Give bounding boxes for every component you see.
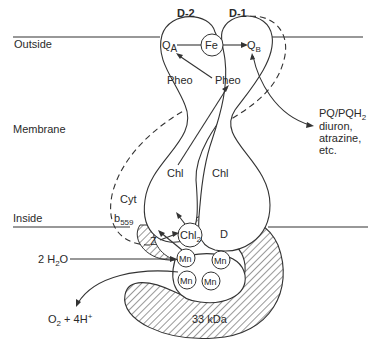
pheo-left-label: Pheo (167, 74, 193, 86)
mn-label-1: Mn (179, 254, 192, 264)
protein-33kda-label: 33 kDa (192, 313, 228, 325)
mn-label-3: Mn (180, 276, 193, 286)
d1-label: D-1 (229, 7, 247, 19)
pheo-right-label: Pheo (215, 74, 241, 86)
z-label: Z (150, 235, 157, 247)
d-label: D (220, 228, 228, 240)
etc-label: etc. (319, 144, 337, 156)
membrane-label: Membrane (13, 123, 66, 135)
mn-label-2: Mn (214, 256, 227, 266)
atrazine-label: atrazine, (319, 132, 361, 144)
cyt-label: Cyt (120, 193, 137, 205)
inside-label: Inside (13, 212, 42, 224)
fe-label: Fe (205, 39, 218, 51)
diuron-label: diuron, (319, 120, 353, 132)
water-label: 2 H2O (38, 253, 69, 268)
outside-label: Outside (14, 38, 52, 50)
chl-right-label: Chl (212, 167, 229, 179)
psii-diagram: Outside Membrane Inside D-2 D-1 QA Fe QB… (0, 0, 381, 349)
qb-exchange-arrowhead (306, 122, 314, 128)
mn-label-4: Mn (204, 277, 217, 287)
d2-label: D-2 (177, 7, 195, 19)
chl-left-label: Chl (167, 167, 184, 179)
o2-label: O2 + 4H+ (48, 312, 93, 328)
cyt-b559-label: b559 (114, 212, 134, 227)
